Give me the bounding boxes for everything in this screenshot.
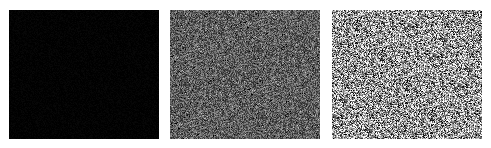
noise-panel-medium [170, 10, 320, 139]
panel-3-canvas [332, 10, 482, 139]
noise-panel-bright [332, 10, 482, 139]
panel-1-canvas [9, 10, 159, 139]
noise-panel-dark [9, 10, 159, 139]
panel-2-canvas [170, 10, 320, 139]
